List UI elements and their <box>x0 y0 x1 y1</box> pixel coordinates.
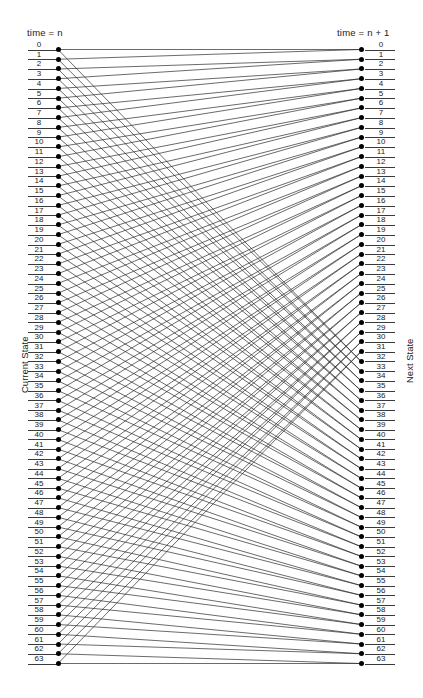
current-state-node-32 <box>56 359 61 364</box>
transition-edge-22-to-43 <box>58 264 361 469</box>
transition-edge-37-to-18 <box>58 225 361 410</box>
next-state-label-43: 43 <box>368 460 394 468</box>
transition-edge-16-to-8 <box>58 127 361 205</box>
transition-edge-22-to-11 <box>58 157 361 264</box>
current-state-node-23 <box>56 271 61 276</box>
current-state-node-49 <box>56 525 61 530</box>
current-state-label-61: 61 <box>26 636 52 644</box>
transition-edge-34-to-49 <box>58 381 361 527</box>
next-state-label-46: 46 <box>368 489 394 497</box>
next-state-label-9: 9 <box>368 129 394 137</box>
current-state-node-17 <box>56 213 61 218</box>
current-state-label-39: 39 <box>26 421 52 429</box>
next-state-node-61 <box>359 642 364 647</box>
next-state-node-22 <box>359 261 364 266</box>
next-state-node-37 <box>359 408 364 413</box>
current-state-node-46 <box>56 495 61 500</box>
next-state-node-59 <box>359 622 364 627</box>
next-state-label-62: 62 <box>368 645 394 653</box>
next-state-node-40 <box>359 437 364 442</box>
current-state-label-38: 38 <box>26 411 52 419</box>
next-state-node-56 <box>359 593 364 598</box>
next-state-label-40: 40 <box>368 431 394 439</box>
next-state-label-22: 22 <box>368 255 394 263</box>
next-state-node-45 <box>359 486 364 491</box>
next-state-label-28: 28 <box>368 314 394 322</box>
current-state-label-31: 31 <box>26 343 52 351</box>
transition-edge-23-to-11 <box>58 157 361 274</box>
current-state-node-59 <box>56 622 61 627</box>
next-state-label-47: 47 <box>368 499 394 507</box>
current-state-node-22 <box>56 261 61 266</box>
current-state-label-26: 26 <box>26 294 52 302</box>
transition-edge-41-to-20 <box>58 244 361 449</box>
current-state-label-20: 20 <box>26 236 52 244</box>
current-state-node-42 <box>56 456 61 461</box>
current-state-label-18: 18 <box>26 216 52 224</box>
next-state-label-48: 48 <box>368 509 394 517</box>
current-state-label-3: 3 <box>26 70 52 78</box>
next-state-node-33 <box>359 369 364 374</box>
next-state-label-16: 16 <box>368 197 394 205</box>
tick-rule <box>28 664 58 665</box>
current-state-node-58 <box>56 612 61 617</box>
next-state-label-30: 30 <box>368 333 394 341</box>
current-state-label-12: 12 <box>26 158 52 166</box>
next-state-node-31 <box>359 349 364 354</box>
current-state-node-20 <box>56 242 61 247</box>
next-state-node-53 <box>359 564 364 569</box>
transition-edge-16-to-40 <box>58 205 361 439</box>
transition-edge-8-to-4 <box>58 88 361 127</box>
current-state-node-7 <box>56 115 61 120</box>
current-state-node-63 <box>56 661 61 666</box>
next-state-label-51: 51 <box>368 538 394 546</box>
current-state-label-47: 47 <box>26 499 52 507</box>
transition-edge-51-to-57 <box>58 547 361 605</box>
current-state-label-23: 23 <box>26 265 52 273</box>
transition-edge-28-to-14 <box>58 186 361 322</box>
transition-edge-52-to-26 <box>58 303 361 556</box>
transition-edge-61-to-62 <box>58 644 361 654</box>
transition-edge-3-to-1 <box>58 59 361 78</box>
transition-edge-57-to-60 <box>58 605 361 634</box>
tick-rule <box>365 664 395 665</box>
next-state-node-36 <box>359 398 364 403</box>
current-state-node-25 <box>56 291 61 296</box>
current-state-label-27: 27 <box>26 304 52 312</box>
next-state-label-55: 55 <box>368 577 394 585</box>
next-state-label-13: 13 <box>368 168 394 176</box>
next-state-label-35: 35 <box>368 382 394 390</box>
next-state-node-38 <box>359 417 364 422</box>
current-state-label-7: 7 <box>26 109 52 117</box>
current-state-node-13 <box>56 174 61 179</box>
transition-edge-13-to-6 <box>58 108 361 176</box>
next-state-label-0: 0 <box>368 41 394 49</box>
next-state-node-44 <box>359 476 364 481</box>
current-state-node-3 <box>56 76 61 81</box>
transition-edge-10-to-37 <box>58 147 361 410</box>
transition-edge-56-to-60 <box>58 595 361 634</box>
transition-edge-56-to-28 <box>58 322 361 595</box>
next-state-label-14: 14 <box>368 177 394 185</box>
next-state-node-43 <box>359 466 364 471</box>
transition-edge-62-to-63 <box>58 654 361 664</box>
next-state-label-24: 24 <box>368 275 394 283</box>
next-state-node-13 <box>359 174 364 179</box>
current-state-node-4 <box>56 86 61 91</box>
current-state-label-33: 33 <box>26 363 52 371</box>
next-state-node-39 <box>359 427 364 432</box>
transition-edge-12-to-38 <box>58 166 361 419</box>
next-state-label-6: 6 <box>368 99 394 107</box>
current-state-label-17: 17 <box>26 207 52 215</box>
transition-edge-44-to-22 <box>58 264 361 478</box>
next-state-node-60 <box>359 632 364 637</box>
transition-edge-51-to-25 <box>58 293 361 546</box>
current-state-label-15: 15 <box>26 187 52 195</box>
current-state-label-6: 6 <box>26 99 52 107</box>
transition-edge-34-to-17 <box>58 215 361 381</box>
next-state-label-38: 38 <box>368 411 394 419</box>
next-state-node-17 <box>359 213 364 218</box>
current-state-node-61 <box>56 642 61 647</box>
next-state-node-47 <box>359 505 364 510</box>
transition-edge-42-to-53 <box>58 459 361 566</box>
